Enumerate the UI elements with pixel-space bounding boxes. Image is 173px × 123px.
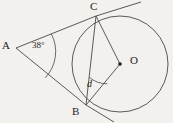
tangent-extension-past-C [96, 2, 141, 16]
angle-label-at-B: d [87, 79, 92, 89]
geometry-figure: A B C O 38° d [0, 0, 173, 123]
angle-arc-at-A [45, 34, 55, 78]
point-label-C: C [90, 1, 97, 12]
chord-BC [86, 16, 96, 105]
point-label-A: A [2, 40, 10, 51]
point-label-B: B [72, 106, 79, 117]
tangent-line-AB [16, 48, 86, 105]
center-point-dot-O [118, 62, 122, 66]
angle-label-at-A: 38° [32, 41, 45, 50]
radius-CO [96, 16, 120, 64]
point-label-O: O [130, 55, 138, 66]
geometry-svg [0, 0, 173, 123]
